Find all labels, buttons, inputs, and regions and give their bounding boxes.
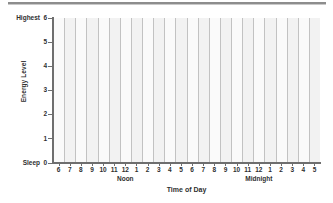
vertical-gridline (264, 18, 265, 163)
vertical-gridline (298, 18, 299, 163)
y-axis-tick-label: 1 (33, 136, 47, 143)
y-axis-tick (48, 66, 53, 67)
gridlines-layer (53, 18, 320, 163)
grid-band (75, 18, 86, 163)
y-axis-tick-label: 5 (33, 39, 47, 46)
y-axis-tick (48, 114, 53, 115)
grid-band (120, 18, 131, 163)
vertical-gridline (98, 18, 99, 163)
vertical-gridline (86, 18, 87, 163)
x-axis-tick-label: 5 (307, 167, 321, 174)
grid-band (298, 18, 309, 163)
y-axis-tick (48, 90, 53, 91)
grid-band (187, 18, 198, 163)
y-axis-tick (48, 42, 53, 43)
vertical-gridline (142, 18, 143, 163)
plot-area (53, 18, 320, 163)
vertical-gridline (64, 18, 65, 163)
energy-level-chart: 0123456 Highest Sleep Energy Level 67891… (0, 0, 333, 203)
vertical-gridline (75, 18, 76, 163)
figure-page: 0123456 Highest Sleep Energy Level 67891… (0, 0, 333, 203)
vertical-gridline (231, 18, 232, 163)
vertical-gridline (109, 18, 110, 163)
vertical-gridline (175, 18, 176, 163)
y-axis-tick-label: 3 (33, 87, 47, 94)
grid-band (276, 18, 287, 163)
vertical-gridline (198, 18, 199, 163)
grid-band (231, 18, 242, 163)
vertical-gridline (253, 18, 254, 163)
grid-band (209, 18, 220, 163)
vertical-gridline (309, 18, 310, 163)
grid-band (53, 18, 64, 163)
vertical-gridline (187, 18, 188, 163)
x-axis-title: Time of Day (53, 186, 320, 193)
vertical-gridline (276, 18, 277, 163)
x-axis-sublabel: Noon (100, 176, 150, 183)
y-axis-tick (48, 163, 53, 164)
y-axis-endpoint-sleep: Sleep (6, 160, 40, 167)
grid-band (142, 18, 153, 163)
vertical-gridline (164, 18, 165, 163)
vertical-gridline (153, 18, 154, 163)
vertical-gridline (242, 18, 243, 163)
vertical-gridline (131, 18, 132, 163)
y-axis-tick (48, 138, 53, 139)
y-axis-tick-label: 2 (33, 111, 47, 118)
grid-band (164, 18, 175, 163)
y-axis-endpoint-highest: Highest (6, 15, 40, 22)
vertical-gridline (287, 18, 288, 163)
vertical-gridline (220, 18, 221, 163)
grid-band (253, 18, 264, 163)
grid-band (98, 18, 109, 163)
vertical-gridline (209, 18, 210, 163)
vertical-gridline (120, 18, 121, 163)
y-axis-title: Energy Level (20, 52, 27, 112)
y-axis-tick (48, 18, 53, 19)
x-axis-sublabel: Midnight (234, 176, 284, 183)
y-axis-tick-label: 4 (33, 63, 47, 70)
